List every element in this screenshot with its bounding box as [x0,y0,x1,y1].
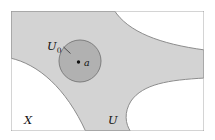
label-U0-subscript: 0 [57,46,62,55]
label-U0-base: U [47,39,57,53]
neighborhood-U0 [59,40,101,82]
label-U: U [108,113,118,127]
topology-figure: U0 a X U [0,0,215,140]
figure-canvas: U0 a X U [0,0,215,140]
label-a: a [84,57,90,68]
point-a-dot [77,60,80,63]
label-X: X [23,113,33,127]
